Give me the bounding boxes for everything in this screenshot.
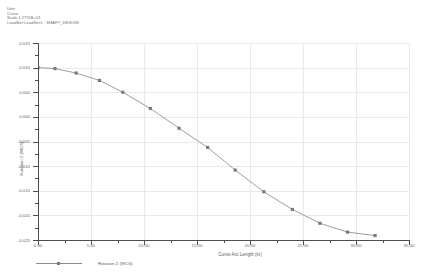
y-axis-tick-label: 0.005 [0,90,30,95]
chart-legend: Rotation Z (WCS) [36,261,133,266]
x-axis-tick-label: 20.00 [235,243,265,248]
y-axis-tick-minor [35,80,38,81]
series-data-point [206,146,209,149]
y-axis-tick-minor [35,105,38,106]
legend-entry-label: Rotation Z (WCS) [98,261,133,266]
x-axis-tick-label: 5.00 [76,243,106,248]
y-axis-line [38,43,39,241]
x-axis-tick-label: 10.00 [129,243,159,248]
series-canvas [38,43,409,240]
x-axis-tick-label: 30.00 [341,243,371,248]
plot-header: Unit: Curve Scale 1.2770E+01 LoadSet:Loa… [7,7,79,25]
y-axis-tick-label: 0.015 [0,41,30,46]
x-axis-tick-label: 35.00 [394,243,424,248]
y-axis-tick-label: -0.005 [0,139,30,144]
series-data-point [75,71,78,74]
header-line-loadset: LoadSet:LoadSet1 : SHAFT_DESIGN [7,21,79,26]
y-axis-tick-label: -0.015 [0,188,30,193]
series-data-point [346,231,349,234]
series-data-point [53,67,56,70]
x-axis-title: Curve Arc Length (in) [180,252,300,257]
series-data-point [234,168,237,171]
x-axis-tick-label: 15.00 [182,243,212,248]
y-axis-tick-minor [35,154,38,155]
y-axis-tick [33,166,38,167]
series-line-rotation-z [38,68,375,236]
series-data-point [149,107,152,110]
y-axis-tick-label: -0.010 [0,164,30,169]
y-axis-title: Rotation Z (WCS) [19,124,24,194]
x-axis-tick-label: 25.00 [288,243,318,248]
x-axis-tick-minor [330,240,331,243]
y-axis-tick [33,117,38,118]
y-axis-tick-label: -0.025 [0,238,30,243]
x-axis-tick-minor [224,240,225,243]
y-axis-tick-minor [35,228,38,229]
y-axis-tick-minor [35,55,38,56]
series-data-point [262,190,265,193]
series-data-point [177,127,180,130]
series-data-point [121,91,124,94]
x-axis-tick-minor [383,240,384,243]
x-axis-tick-minor [118,240,119,243]
plot-area [38,43,409,240]
series-data-point [318,222,321,225]
y-axis-tick [33,191,38,192]
y-axis-tick [33,142,38,143]
x-axis-tick-minor [277,240,278,243]
gridline-vertical [409,43,410,240]
x-axis-tick-label: 0.00 [23,243,53,248]
y-axis-tick [33,215,38,216]
y-axis-tick-minor [35,203,38,204]
y-axis-tick-minor [35,178,38,179]
y-axis-tick-label: 0.010 [0,65,30,70]
y-axis-tick-minor [35,129,38,130]
y-axis-tick [33,92,38,93]
y-axis-tick-label: 0.000 [0,114,30,119]
x-axis-tick-minor [171,240,172,243]
y-axis-tick [33,43,38,44]
series-data-point [98,79,101,82]
series-data-point [373,234,376,237]
y-axis-tick [33,68,38,69]
x-axis-tick-minor [65,240,66,243]
legend-line-marker-icon [36,263,82,264]
y-axis-tick-label: -0.020 [0,213,30,218]
series-data-point [291,208,294,211]
